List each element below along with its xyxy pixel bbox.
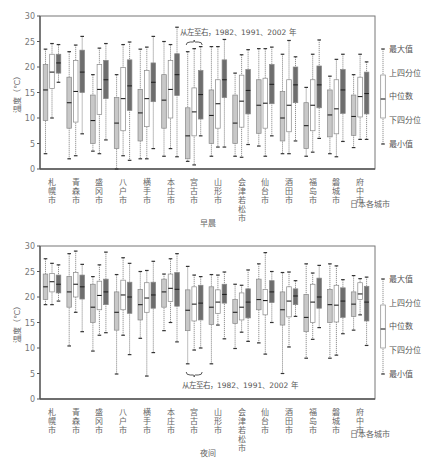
box-2002: [341, 54, 346, 141]
box-2002: [127, 263, 132, 354]
city-label: 八户市: [119, 178, 127, 205]
city-label-char: 手: [143, 416, 151, 426]
city-label: 仙台市: [261, 407, 269, 435]
iqr-box: [328, 90, 333, 137]
legend-label: 中位数: [389, 91, 413, 101]
city-label-char: 札: [48, 177, 56, 187]
city-label-char: 庄: [167, 186, 175, 196]
iqr-box: [233, 300, 238, 324]
box-1982: [67, 254, 72, 346]
y-tick-label: 20: [25, 293, 35, 302]
city-label-char: 宫: [190, 177, 198, 187]
box-2002: [270, 272, 275, 323]
city-label: 会津若松市: [238, 177, 246, 223]
city-label-char: 市: [309, 195, 317, 205]
box-1991: [263, 253, 268, 354]
box-1991: [239, 55, 244, 158]
city-label-char: 青: [72, 407, 80, 417]
iqr-box: [351, 95, 356, 135]
city-label-char: 市: [190, 195, 198, 205]
box-2002: [127, 42, 132, 160]
box-1991: [334, 266, 339, 355]
box-1991: [168, 259, 173, 323]
box-1982: [351, 75, 356, 148]
x-group-label: 日本各城市: [350, 429, 390, 439]
city-label-char: 田: [285, 187, 293, 196]
iqr-box: [222, 60, 227, 98]
box-1991: [263, 49, 268, 157]
city-label: 札幌市: [48, 177, 56, 205]
city-label-char: 幌: [48, 416, 56, 426]
city-label-char: 市: [119, 195, 127, 205]
night-box-plot: 051015202530温度（℃）札幌市青森市盛冈市八户市横手市本庄市宫古市山形…: [0, 230, 434, 462]
city-label-char: 市: [72, 195, 80, 205]
city-label-char: 市: [48, 195, 56, 205]
city-label-char: 手: [143, 186, 151, 196]
box-1982: [257, 49, 262, 146]
box-1991: [50, 263, 55, 304]
plot-frame: [40, 16, 375, 169]
iqr-box: [185, 108, 190, 159]
box-2002: [104, 44, 109, 140]
box-1991: [358, 279, 363, 315]
iqr-box: [341, 70, 346, 114]
annotation-text: 从左至右，1982、1991、2002 年: [182, 380, 299, 390]
iqr-box: [358, 283, 363, 300]
box-2002: [151, 261, 156, 352]
legend-label: 最小值: [389, 369, 413, 379]
box-2002: [341, 280, 346, 334]
iqr-box: [127, 60, 132, 110]
morning-chart-panel: 051015202530温度（℃）札幌市青森市盛冈市八户市横手市本庄市宫古市山形…: [0, 0, 434, 232]
box-2002: [364, 62, 369, 140]
city-label-char: 市: [143, 195, 151, 205]
iqr-box: [334, 80, 339, 134]
box-1982: [91, 75, 96, 151]
city-label-char: 松: [238, 434, 246, 444]
box-1982: [328, 76, 333, 154]
city-label: 盛冈市: [95, 177, 103, 205]
y-tick-label: 5: [30, 140, 35, 149]
y-axis-label: 温度（℃）: [12, 302, 22, 343]
city-label-char: 市: [95, 425, 103, 435]
box-1991: [97, 48, 102, 154]
city-label: 宫古市: [190, 407, 198, 435]
city-label-char: 仙: [261, 407, 269, 417]
city-label-char: 中: [356, 416, 364, 426]
box-1991: [334, 59, 339, 156]
box-2002: [293, 281, 298, 317]
box-1991: [145, 270, 150, 376]
legend-label: 下四分位: [389, 345, 421, 355]
city-label-char: 市: [238, 213, 246, 223]
iqr-box: [310, 284, 315, 322]
city-label: 酒田市: [285, 408, 293, 435]
box-1982: [43, 259, 48, 305]
city-label-char: 幌: [48, 186, 56, 196]
city-label-char: 市: [332, 195, 340, 205]
y-tick-label: 25: [25, 38, 35, 47]
box-1991: [73, 251, 78, 312]
box-1991: [287, 40, 292, 153]
city-label-char: 山: [214, 407, 222, 417]
box-1991: [168, 45, 173, 149]
iqr-box: [114, 292, 119, 330]
box-2002: [222, 39, 227, 147]
box-2002: [270, 47, 275, 136]
iqr-box: [43, 64, 48, 120]
box-1982: [114, 275, 119, 374]
box-1982: [233, 284, 238, 348]
city-label-char: 市: [119, 425, 127, 435]
iqr-box: [246, 70, 251, 114]
box-1982: [280, 273, 285, 374]
city-label-char: 城: [332, 417, 340, 426]
box-2002: [198, 277, 203, 348]
city-label: 磐城市: [332, 177, 340, 205]
box-1982: [280, 54, 285, 153]
city-label-char: 盛: [95, 177, 103, 187]
box-1982: [185, 52, 190, 162]
box-2002: [222, 272, 227, 339]
iqr-box: [280, 91, 285, 140]
iqr-box: [80, 50, 85, 92]
city-label-char: 冈: [95, 187, 103, 196]
box-1982: [304, 87, 309, 156]
city-label: 山形市: [214, 407, 222, 435]
